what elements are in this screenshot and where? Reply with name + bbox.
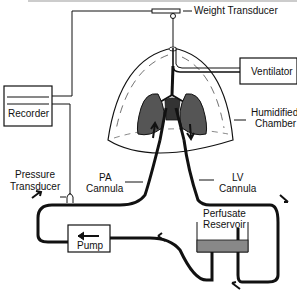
recorder-label: Recorder: [8, 108, 49, 119]
weight-transducer-label: Weight Transducer: [194, 5, 278, 16]
pressure-transducer-label-1: Pressure: [15, 169, 55, 180]
humidified-chamber-label-1: Humidified: [251, 107, 297, 118]
pump-label: Pump: [77, 240, 103, 251]
pa-cannula-label-2: Cannula: [86, 183, 123, 194]
humidified-chamber-label-2: Chamber: [255, 118, 296, 129]
lv-cannula-label-1: LV: [232, 172, 244, 183]
diagram-canvas: [0, 0, 297, 298]
weight-transducer-icon: [152, 9, 180, 13]
pressure-transducer-label-2: Transducer: [10, 181, 60, 192]
flow-arrow-icon: [280, 195, 288, 202]
lv-cannula-label-2: Cannula: [219, 183, 256, 194]
ventilator-label: Ventilator: [251, 66, 293, 77]
recorder-icon: [4, 86, 52, 126]
pa-cannula-label-1: PA: [99, 172, 112, 183]
flow-arrow-icon: [32, 191, 41, 198]
perfusate-reservoir-label-1: Perfusate: [203, 208, 246, 219]
perfusate-reservoir-label-2: Reservoir: [203, 219, 246, 230]
flow-arrow-icon: [232, 282, 240, 289]
